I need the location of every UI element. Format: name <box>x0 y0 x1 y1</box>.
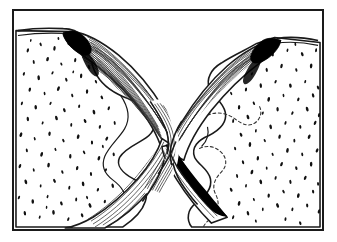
anatomical-illustration <box>14 11 322 229</box>
figure-page: Anatomical line drawing: crossing fibrou… <box>0 0 337 242</box>
figure-frame <box>12 9 324 231</box>
